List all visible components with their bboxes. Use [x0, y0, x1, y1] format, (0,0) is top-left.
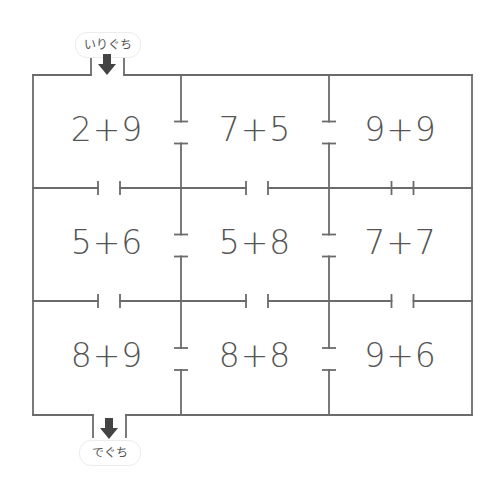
exit-down-arrow-icon: [99, 418, 119, 440]
entrance-down-arrow-icon: [97, 54, 117, 76]
maze-cell-problem: 7+7: [327, 223, 475, 262]
maze-cell-problem: 5+6: [33, 223, 181, 262]
maze-cell-problem: 7+5: [181, 110, 329, 149]
entrance-label-text: いりぐち: [84, 38, 132, 52]
exit-label: でぐち: [79, 440, 141, 466]
exit-label-text: でぐち: [92, 446, 128, 460]
maze-cell-problem: 5+8: [181, 223, 329, 262]
maze-cell-problem: 8+8: [181, 336, 329, 375]
maze-cell-problem: 2+9: [33, 110, 181, 149]
maze-cell-problem: 9+6: [327, 336, 475, 375]
maze-cell-problem: 9+9: [327, 110, 475, 149]
maze-cell-problem: 8+9: [33, 336, 181, 375]
